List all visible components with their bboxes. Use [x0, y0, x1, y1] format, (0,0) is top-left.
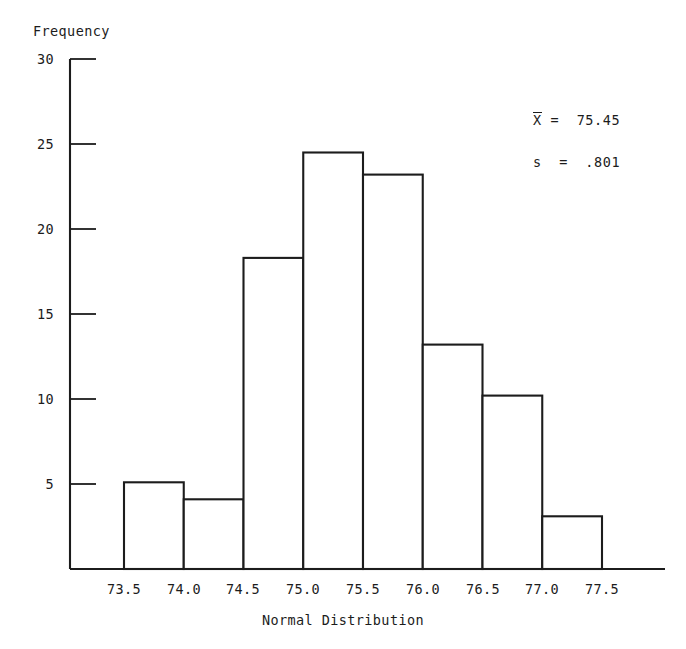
histogram-bar — [483, 396, 543, 569]
x-tick-label-76-5: 76.5 — [453, 581, 513, 597]
histogram-bar — [542, 516, 602, 569]
y-tick-label-30: 30 — [14, 51, 54, 67]
y-tick-label-20: 20 — [14, 221, 54, 237]
chart-plot-area — [0, 0, 686, 649]
x-tick-label-77-0: 77.0 — [512, 581, 572, 597]
histogram-chart: Frequency 30 25 20 15 10 5 73.5 74.0 74.… — [0, 0, 686, 649]
y-axis-title: Frequency — [33, 23, 110, 39]
x-tick-label-75-0: 75.0 — [273, 581, 333, 597]
x-tick-label-74-5: 74.5 — [213, 581, 273, 597]
y-axis-ticks — [70, 59, 96, 484]
x-tick-label-74-0: 74.0 — [154, 581, 214, 597]
histogram-bar — [184, 499, 244, 569]
y-tick-label-15: 15 — [14, 306, 54, 322]
mean-symbol-overbar: X — [533, 112, 542, 128]
x-tick-label-73-5: 73.5 — [94, 581, 154, 597]
x-tick-label-77-5: 77.5 — [572, 581, 632, 597]
annotation-std-dev: s = .801 — [533, 154, 620, 170]
histogram-bar — [363, 175, 423, 569]
x-tick-label-76-0: 76.0 — [393, 581, 453, 597]
y-tick-label-25: 25 — [14, 136, 54, 152]
histogram-bars — [124, 153, 602, 570]
x-tick-label-75-5: 75.5 — [333, 581, 393, 597]
histogram-bar — [244, 258, 304, 569]
annotation-mean: X = 75.45 — [533, 112, 620, 128]
mean-value: = 75.45 — [542, 112, 621, 128]
histogram-bar — [303, 153, 363, 570]
histogram-bar — [124, 482, 184, 569]
y-tick-label-5: 5 — [14, 476, 54, 492]
x-axis-title: Normal Distribution — [0, 612, 686, 628]
histogram-bar — [423, 345, 483, 569]
y-tick-label-10: 10 — [14, 391, 54, 407]
